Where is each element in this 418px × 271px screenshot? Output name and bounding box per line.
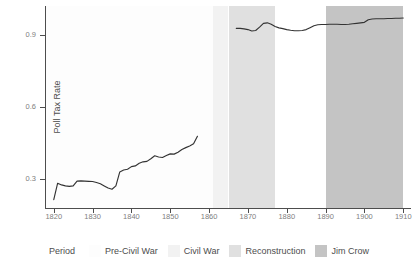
x-tick-label: 1900 xyxy=(344,212,384,221)
chart-figure: Poll Tax Rate 0.30.60.9 1820183018401850… xyxy=(0,0,418,271)
x-tick-label: 1830 xyxy=(73,212,113,221)
series-line-1 xyxy=(54,136,198,199)
y-tick-label: 0.9 xyxy=(0,31,36,39)
x-axis-line xyxy=(45,208,411,209)
legend-item-jim-crow[interactable]: Jim Crow xyxy=(315,245,369,257)
y-tick-label: 0.6 xyxy=(0,103,36,111)
legend-item-label: Civil War xyxy=(184,246,220,256)
legend-item-label: Pre-Civil War xyxy=(105,246,158,256)
y-tick-label: 0.3 xyxy=(0,175,36,183)
x-tick-label: 1820 xyxy=(34,212,74,221)
y-tick xyxy=(40,179,45,180)
legend-title: Period xyxy=(49,246,75,256)
legend-item-civil-war[interactable]: Civil War xyxy=(168,245,220,257)
legend: Period Pre-Civil WarCivil WarReconstruct… xyxy=(0,239,418,263)
x-tick-label: 1910 xyxy=(383,212,418,221)
plot-panel xyxy=(46,6,411,208)
legend-items: Pre-Civil WarCivil WarReconstructionJim … xyxy=(89,245,369,257)
legend-item-reconstruction[interactable]: Reconstruction xyxy=(229,245,305,257)
series-layer xyxy=(46,6,411,208)
x-tick-label: 1840 xyxy=(111,212,151,221)
plot-area: Poll Tax Rate xyxy=(46,6,411,208)
legend-item-label: Jim Crow xyxy=(331,246,369,256)
legend-swatch xyxy=(229,245,241,257)
legend-item-pre-civil-war[interactable]: Pre-Civil War xyxy=(89,245,158,257)
y-tick xyxy=(40,35,45,36)
x-tick-label: 1870 xyxy=(228,212,268,221)
legend-item-label: Reconstruction xyxy=(245,246,305,256)
y-tick xyxy=(40,107,45,108)
y-axis-line xyxy=(45,6,46,209)
legend-swatch xyxy=(168,245,180,257)
x-tick-label: 1850 xyxy=(150,212,190,221)
y-axis-title: Poll Tax Rate xyxy=(52,57,62,157)
x-tick-label: 1880 xyxy=(267,212,307,221)
legend-swatch xyxy=(315,245,327,257)
legend-swatch xyxy=(89,245,101,257)
series-line-2 xyxy=(236,18,403,31)
x-tick-label: 1860 xyxy=(189,212,229,221)
x-tick-label: 1890 xyxy=(306,212,346,221)
